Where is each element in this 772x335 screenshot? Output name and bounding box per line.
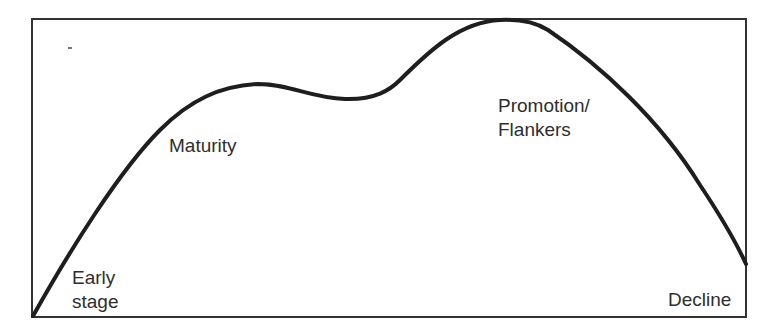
label-maturity: Maturity [169, 134, 237, 158]
chart-frame [32, 19, 746, 317]
label-promotion-flankers: Promotion/ Flankers [498, 94, 590, 142]
stray-mark [68, 47, 72, 49]
label-decline: Decline [668, 288, 731, 312]
life-cycle-curve [33, 20, 746, 316]
label-early-stage: Early stage [72, 266, 118, 314]
